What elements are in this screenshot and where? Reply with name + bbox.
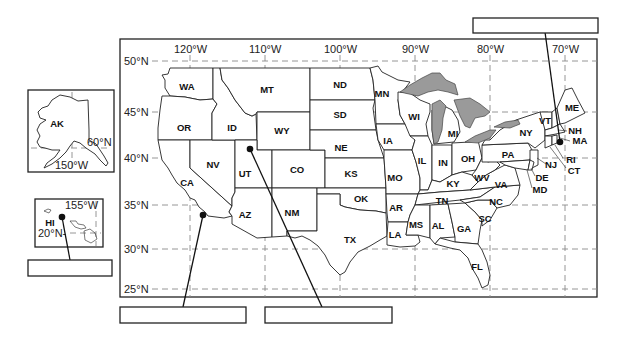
alaska-label: AK [50,118,64,129]
latitude-labels: 50°N 45°N 40°N 35°N 30°N 25°N [124,55,149,295]
label-mi: MI [448,128,459,139]
hawaii-island-big [84,229,97,243]
states [158,66,585,288]
label-wv: WV [474,172,490,183]
hawaii-island-maui [70,221,86,229]
lat-label-30n: 30°N [124,243,149,255]
label-sd: SD [333,109,346,120]
us-map-diagram: AK 60°N 150°W HI 155°W 20°N- 120°W [0,0,623,345]
lat-label-45n: 45°N [124,106,149,118]
hawaii-answer-box[interactable] [28,260,112,276]
label-fl: FL [471,261,483,272]
label-me: ME [565,102,579,113]
label-tx: TX [344,234,357,245]
label-in: IN [438,157,448,168]
alaska-lat-label: 60°N [87,136,112,148]
label-wa: WA [179,81,194,92]
alaska-inset: AK 60°N 150°W [28,90,114,172]
label-co: CO [290,164,304,175]
lon-label-100w: 100°W [324,43,358,55]
hawaii-inset: HI 155°W 20°N- [35,199,103,260]
label-vt: VT [539,115,551,126]
northeast-answer-box[interactable] [473,18,598,33]
label-pa: PA [502,149,515,160]
hawaii-island-kauai [44,209,51,213]
label-wi: WI [408,111,420,122]
lon-label-70w: 70°W [552,43,580,55]
label-ca: CA [180,177,194,188]
label-ks: KS [344,168,357,179]
label-ms: MS [409,219,423,230]
label-ma: MA [573,135,588,146]
lon-label-90w: 90°W [402,43,430,55]
label-ut: UT [239,168,252,179]
alaska-outline [37,95,108,168]
label-ok: OK [354,193,368,204]
label-oh: OH [461,153,475,164]
label-mn: MN [375,88,390,99]
lake-huron [454,98,490,128]
alaska-lon-label: 150°W [55,159,89,171]
label-ar: AR [389,202,403,213]
label-al: AL [432,220,445,231]
lake-superior [400,73,458,96]
lon-label-80w: 80°W [477,43,505,55]
state-or [158,96,217,140]
label-ga: GA [457,223,471,234]
state-ri [552,135,557,145]
label-va: VA [495,179,508,190]
label-tn: TN [436,195,449,206]
hawaii-lon-label: 155°W [65,199,99,211]
label-ny: NY [519,127,533,138]
southwest-answer-box[interactable] [120,307,246,323]
label-ri: RI [566,154,576,165]
label-nc: NC [489,196,503,207]
longitude-labels: 120°W 110°W 100°W 90°W 80°W 70°W [174,43,580,55]
southwest-leader-line [183,215,203,307]
label-ia: IA [383,135,393,146]
lat-label-25n: 25°N [124,283,149,295]
label-la: LA [389,229,402,240]
hawaii-lat-label: 20°N- [38,227,67,239]
label-nm: NM [285,207,300,218]
label-ne: NE [334,142,347,153]
lat-label-35n: 35°N [124,199,149,211]
lat-label-50n: 50°N [124,55,149,67]
label-nd: ND [333,79,347,90]
label-id: ID [227,122,237,133]
label-az: AZ [239,209,252,220]
label-or: OR [177,122,191,133]
label-ky: KY [446,178,460,189]
label-ct: CT [568,165,581,176]
label-mt: MT [260,84,274,95]
label-il: IL [418,155,427,166]
lon-label-110w: 110°W [249,43,282,55]
lon-label-120w: 120°W [174,43,208,55]
utah-answer-box[interactable] [265,307,392,323]
label-md: MD [533,184,548,195]
label-mo: MO [387,172,402,183]
label-nj: NJ [545,159,557,170]
label-de: DE [535,172,548,183]
label-wy: WY [274,125,290,136]
lat-label-40n: 40°N [124,152,149,164]
label-nv: NV [206,159,220,170]
label-sc: SC [478,213,491,224]
state-ct [545,136,552,148]
